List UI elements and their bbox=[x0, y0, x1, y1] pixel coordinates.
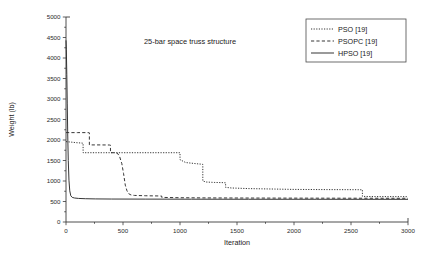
svg-text:1000: 1000 bbox=[47, 177, 61, 184]
chart-series-lines bbox=[66, 40, 408, 199]
svg-text:5000: 5000 bbox=[47, 13, 61, 20]
chart-annotation: 25-bar space truss structure bbox=[144, 37, 236, 46]
legend-label-hpso: HPSO [19] bbox=[338, 49, 372, 58]
svg-text:0: 0 bbox=[64, 227, 68, 234]
x-axis-title: Iteration bbox=[224, 238, 250, 247]
svg-text:1000: 1000 bbox=[173, 227, 187, 234]
svg-text:500: 500 bbox=[50, 198, 61, 205]
legend-label-pso: PSO [19] bbox=[338, 25, 367, 34]
svg-text:2500: 2500 bbox=[344, 227, 358, 234]
y-axis-title: Weight (lb) bbox=[7, 102, 16, 137]
series-line-psopc bbox=[66, 133, 408, 199]
svg-text:1500: 1500 bbox=[47, 157, 61, 164]
series-line-pso bbox=[66, 142, 408, 197]
chart-figure: 0500100015002000250030003500400045005000… bbox=[0, 0, 427, 263]
svg-text:3500: 3500 bbox=[47, 75, 61, 82]
svg-text:3000: 3000 bbox=[47, 95, 61, 102]
svg-text:1500: 1500 bbox=[230, 227, 244, 234]
svg-text:3000: 3000 bbox=[401, 227, 415, 234]
chart-legend: PSO [19]PSOPC [19]HPSO [19] bbox=[306, 19, 406, 62]
legend-label-psopc: PSOPC [19] bbox=[338, 37, 377, 46]
svg-text:2500: 2500 bbox=[47, 116, 61, 123]
svg-text:4000: 4000 bbox=[47, 54, 61, 61]
series-line-hpso bbox=[66, 40, 408, 199]
svg-text:4500: 4500 bbox=[47, 34, 61, 41]
svg-text:2000: 2000 bbox=[47, 136, 61, 143]
svg-text:2000: 2000 bbox=[287, 227, 301, 234]
svg-text:500: 500 bbox=[118, 227, 129, 234]
svg-text:0: 0 bbox=[57, 218, 61, 225]
line-chart: 0500100015002000250030003500400045005000… bbox=[0, 0, 427, 263]
